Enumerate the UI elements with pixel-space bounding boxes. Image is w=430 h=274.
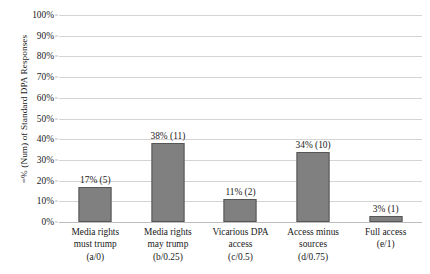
bar-slot: 38% (11) bbox=[132, 15, 205, 222]
x-axis-category-label: Full access(e/1) bbox=[349, 226, 422, 251]
x-axis-label-line: must trump bbox=[59, 238, 132, 250]
y-axis-tick-label: 100% bbox=[32, 10, 54, 20]
y-axis-tick-mark bbox=[55, 15, 58, 16]
x-axis-label-line: (c/0.5) bbox=[204, 251, 277, 263]
x-axis-labels: Media rightsmust trump(a/0)Media rightsm… bbox=[59, 226, 422, 272]
x-axis-label-line: Vicarious DPA bbox=[204, 226, 277, 238]
x-axis-label-line: may trump bbox=[132, 238, 205, 250]
y-axis-tick-mark bbox=[55, 222, 58, 223]
y-axis-tick-mark bbox=[55, 35, 58, 36]
bar-value-label: 17% (5) bbox=[80, 175, 110, 185]
y-axis-tick-mark bbox=[55, 159, 58, 160]
bar-slot: 34% (10) bbox=[277, 15, 350, 222]
x-axis-label-line: (b/0.25) bbox=[132, 251, 205, 263]
bar-value-label: 34% (10) bbox=[296, 140, 331, 150]
bar-value-label: 38% (11) bbox=[150, 131, 185, 141]
y-axis-tick-label: 60% bbox=[37, 93, 54, 103]
x-axis-label-line: sources bbox=[277, 238, 350, 250]
bar-slot: 11% (2) bbox=[204, 15, 277, 222]
bar-value-label: 3% (1) bbox=[373, 204, 399, 214]
bar-chart: =% (Num) of Standard DPA Responses 100%9… bbox=[0, 0, 430, 274]
x-axis-label-line: Access minus bbox=[277, 226, 350, 238]
x-axis-category-label: Vicarious DPAaccess(c/0.5) bbox=[204, 226, 277, 263]
bar[interactable] bbox=[297, 152, 330, 222]
y-axis-tick-label: 70% bbox=[37, 72, 54, 82]
bar[interactable] bbox=[369, 216, 402, 222]
y-axis-tick-label: 80% bbox=[37, 51, 54, 61]
x-axis-label-line: (d/0.75) bbox=[277, 251, 350, 263]
y-axis-tick-label: 10% bbox=[37, 196, 54, 206]
y-axis-tick-label: 0% bbox=[42, 217, 55, 227]
bar-slot: 3% (1) bbox=[349, 15, 422, 222]
x-axis-label-line: Media rights bbox=[132, 226, 205, 238]
x-axis-label-line: (a/0) bbox=[59, 251, 132, 263]
x-axis-category-label: Media rightsmust trump(a/0) bbox=[59, 226, 132, 263]
y-axis-tick-mark bbox=[55, 180, 58, 181]
x-axis-category-label: Media rightsmay trump(b/0.25) bbox=[132, 226, 205, 263]
y-axis-tick-label: 40% bbox=[37, 134, 54, 144]
gridline bbox=[59, 222, 422, 223]
y-axis-tick-mark bbox=[55, 56, 58, 57]
x-axis-label-line: Full access bbox=[349, 226, 422, 238]
bar-slot: 17% (5) bbox=[59, 15, 132, 222]
y-axis-tick-label: 90% bbox=[37, 31, 54, 41]
plot-area: 100%90%80%70%60%50%40%30%20%10%0% 17% (5… bbox=[59, 15, 422, 222]
bar-value-label: 11% (2) bbox=[225, 187, 255, 197]
bars-layer: 17% (5)38% (11)11% (2)34% (10)3% (1) bbox=[59, 15, 422, 222]
y-axis-tick-label: 20% bbox=[37, 176, 54, 186]
x-axis-label-line: access bbox=[204, 238, 277, 250]
y-axis-tick-mark bbox=[55, 118, 58, 119]
bar[interactable] bbox=[151, 143, 184, 222]
y-axis-tick-mark bbox=[55, 139, 58, 140]
y-axis-tick-mark bbox=[55, 77, 58, 78]
y-axis-tick-label: 30% bbox=[37, 155, 54, 165]
y-axis-title: =% (Num) of Standard DPA Responses bbox=[19, 9, 29, 209]
x-axis-label-line: (e/1) bbox=[349, 238, 422, 250]
bar[interactable] bbox=[224, 199, 257, 222]
x-axis-label-line: Media rights bbox=[59, 226, 132, 238]
bar[interactable] bbox=[79, 187, 112, 222]
y-axis-tick-label: 50% bbox=[37, 114, 54, 124]
y-axis-tick-mark bbox=[55, 201, 58, 202]
x-axis-category-label: Access minussources(d/0.75) bbox=[277, 226, 350, 263]
y-axis-tick-mark bbox=[55, 97, 58, 98]
